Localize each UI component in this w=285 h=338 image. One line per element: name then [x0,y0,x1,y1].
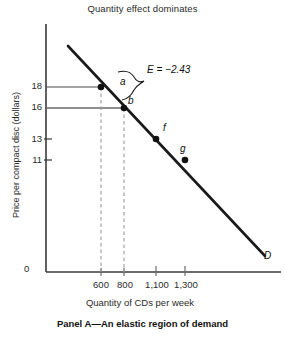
data-point-f [153,136,160,143]
plot-area [0,0,285,338]
data-point-a [98,84,105,91]
demand-curve [68,46,265,256]
data-point-g [182,157,189,164]
data-point-b [121,105,128,112]
figure-panel-a: Quantity effect dominates Price per comp… [0,0,285,338]
elasticity-brace [118,71,144,100]
